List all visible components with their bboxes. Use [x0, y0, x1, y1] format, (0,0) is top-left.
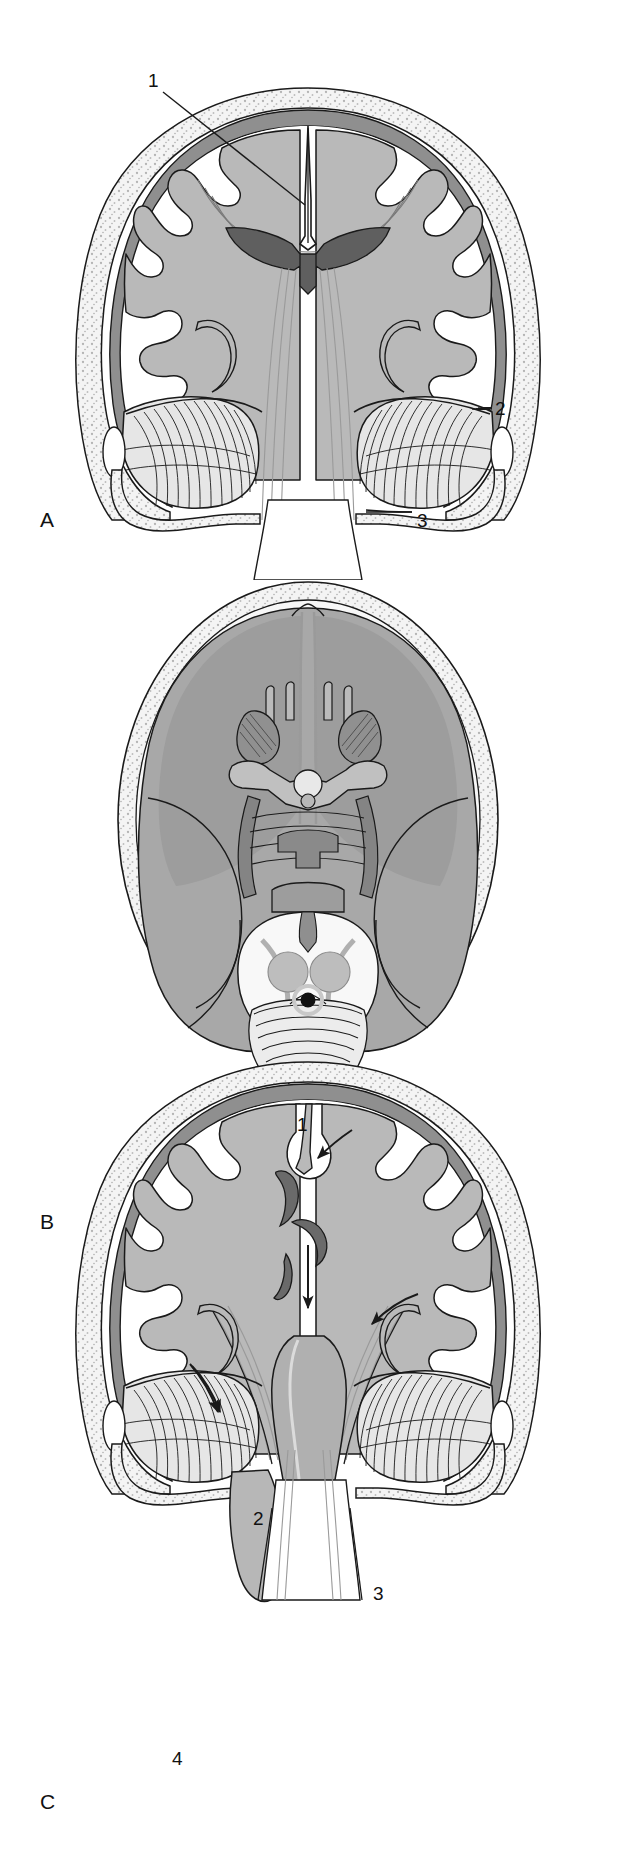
panel-a-artwork	[76, 88, 540, 580]
panel-c-coronal-herniation	[0, 1040, 617, 1867]
callout-number-2-panel-a: 2	[495, 398, 506, 420]
panel-letter-a: A	[40, 508, 55, 532]
panel-b-artwork	[118, 582, 498, 1108]
cerebellum-left-c	[122, 1371, 259, 1482]
cerebellum-right-a	[357, 397, 494, 508]
callout-number-4-panel-c: 4	[172, 1748, 183, 1770]
basilar-tip-b	[301, 794, 315, 808]
callout-number-2-panel-c: 2	[253, 1508, 264, 1530]
brainstem-neck-b	[272, 883, 344, 913]
fourth-ventricle-dot-b	[301, 993, 316, 1008]
panel-letter-b: B	[40, 1210, 55, 1234]
callout-number-3-panel-a: 3	[417, 510, 428, 532]
medulla-c	[262, 1480, 360, 1600]
pontine-nucleus-right-b	[310, 952, 350, 992]
panel-a-coronal-normal	[0, 0, 617, 580]
callout-number-3-panel-c: 3	[373, 1583, 384, 1605]
callout-number-1-panel-c: 1	[297, 1114, 308, 1136]
cerebellum-left-a	[122, 397, 259, 508]
figure-page: A B C 1 2 3 1 2 3 4	[0, 0, 617, 1867]
callout-number-1-panel-a: 1	[148, 70, 159, 92]
panel-c-artwork	[76, 1062, 540, 1601]
cerebellum-right-c	[357, 1371, 494, 1482]
panel-letter-c: C	[40, 1790, 56, 1814]
